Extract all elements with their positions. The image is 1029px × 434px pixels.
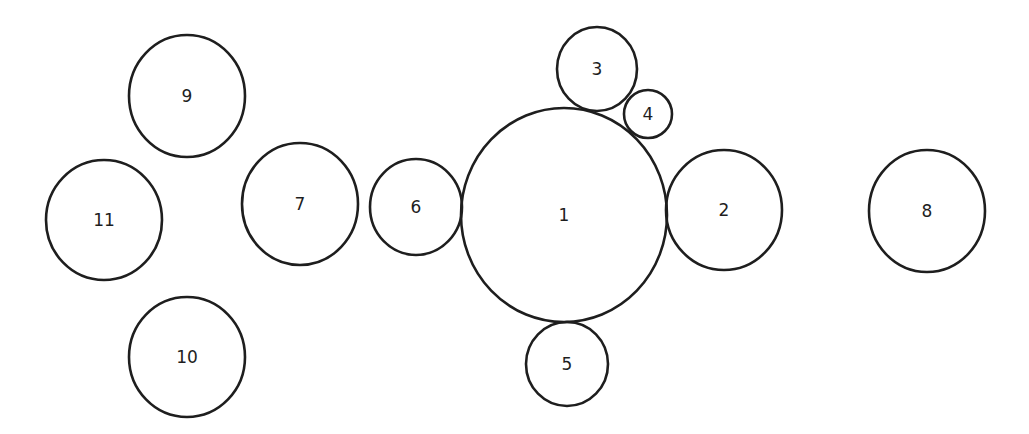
label-1: 1 [559, 205, 570, 225]
node-8: 8 [869, 150, 985, 272]
node-2: 2 [666, 150, 782, 270]
label-11: 11 [93, 210, 115, 230]
label-4: 4 [643, 104, 654, 124]
label-2: 2 [719, 200, 730, 220]
label-10: 10 [176, 347, 198, 367]
node-11: 11 [46, 160, 162, 280]
node-5: 5 [526, 322, 608, 406]
node-10: 10 [129, 297, 245, 417]
node-6: 6 [370, 159, 462, 255]
label-8: 8 [922, 201, 933, 221]
node-7: 7 [242, 143, 358, 265]
label-5: 5 [562, 354, 573, 374]
diagram-svg: 1 2 3 4 5 6 7 [0, 0, 1029, 434]
node-3: 3 [557, 27, 637, 111]
node-9: 9 [129, 35, 245, 157]
circle-diagram: 1 2 3 4 5 6 7 [0, 0, 1029, 434]
label-7: 7 [295, 194, 306, 214]
label-6: 6 [411, 197, 422, 217]
label-3: 3 [592, 59, 603, 79]
node-1: 1 [461, 108, 667, 322]
label-9: 9 [182, 86, 193, 106]
node-group: 1 2 3 4 5 6 7 [46, 27, 985, 417]
node-4: 4 [624, 90, 672, 138]
